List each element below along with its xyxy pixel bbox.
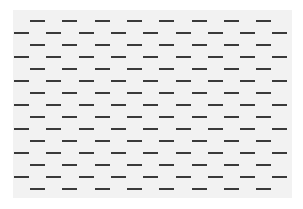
dash-mark xyxy=(224,20,239,22)
dash-mark xyxy=(95,20,110,22)
dash-mark xyxy=(143,176,158,178)
dash-mark xyxy=(79,56,94,58)
dash-mark xyxy=(30,140,45,142)
dash-mark xyxy=(95,44,110,46)
dash-mark xyxy=(127,188,142,190)
dash-mark xyxy=(256,92,271,94)
dash-mark xyxy=(143,104,158,106)
dash-mark xyxy=(143,80,158,82)
dash-mark xyxy=(159,140,174,142)
dash-mark xyxy=(272,152,287,154)
dash-mark xyxy=(143,32,158,34)
dash-mark xyxy=(79,80,94,82)
dash-mark xyxy=(46,56,61,58)
dash-mark xyxy=(224,140,239,142)
dash-mark xyxy=(46,80,61,82)
dash-mark xyxy=(62,44,77,46)
dash-mark xyxy=(176,128,191,130)
dash-mark xyxy=(79,152,94,154)
dash-mark xyxy=(159,68,174,70)
dash-mark xyxy=(240,104,255,106)
dash-mark xyxy=(111,152,126,154)
dash-mark xyxy=(127,140,142,142)
dash-mark xyxy=(14,56,29,58)
dash-mark xyxy=(79,104,94,106)
dash-mark xyxy=(240,80,255,82)
dash-mark xyxy=(208,128,223,130)
dash-mark xyxy=(224,116,239,118)
dash-mark xyxy=(256,140,271,142)
dash-mark xyxy=(176,104,191,106)
dash-mark xyxy=(46,152,61,154)
dash-mark xyxy=(62,68,77,70)
dash-mark xyxy=(30,188,45,190)
dash-mark xyxy=(192,140,207,142)
dash-mark xyxy=(192,20,207,22)
dash-mark xyxy=(224,188,239,190)
dash-mark xyxy=(30,116,45,118)
dash-mark xyxy=(14,104,29,106)
dash-mark xyxy=(192,164,207,166)
dash-mark xyxy=(30,68,45,70)
dash-mark xyxy=(95,92,110,94)
dash-mark xyxy=(208,32,223,34)
dash-mark xyxy=(256,20,271,22)
dash-mark xyxy=(46,176,61,178)
dash-mark xyxy=(143,56,158,58)
dash-mark xyxy=(256,188,271,190)
dash-mark xyxy=(256,44,271,46)
dash-mark xyxy=(176,32,191,34)
dash-mark xyxy=(159,116,174,118)
dash-mark xyxy=(192,68,207,70)
dash-mark xyxy=(30,44,45,46)
dash-mark xyxy=(272,128,287,130)
dash-mark xyxy=(240,32,255,34)
dash-mark xyxy=(159,164,174,166)
dash-mark xyxy=(224,44,239,46)
dash-mark xyxy=(14,152,29,154)
dash-mark xyxy=(256,164,271,166)
dash-mark xyxy=(127,92,142,94)
dash-mark xyxy=(208,152,223,154)
dash-mark xyxy=(95,116,110,118)
dash-mark xyxy=(240,56,255,58)
dash-mark xyxy=(62,164,77,166)
dash-mark xyxy=(272,104,287,106)
dash-mark xyxy=(46,32,61,34)
dash-mark xyxy=(272,80,287,82)
dash-mark xyxy=(208,80,223,82)
dash-mark xyxy=(240,128,255,130)
dash-mark xyxy=(14,32,29,34)
dash-mark xyxy=(272,176,287,178)
dash-mark xyxy=(127,164,142,166)
dash-mark xyxy=(159,92,174,94)
dash-mark xyxy=(95,164,110,166)
dash-mark xyxy=(127,20,142,22)
dash-mark xyxy=(111,104,126,106)
dash-mark xyxy=(79,128,94,130)
dash-mark xyxy=(46,128,61,130)
dash-mark xyxy=(30,20,45,22)
dash-mark xyxy=(143,128,158,130)
dash-mark xyxy=(176,56,191,58)
dash-mark xyxy=(192,116,207,118)
dash-mark xyxy=(240,176,255,178)
dash-mark xyxy=(192,92,207,94)
dash-mark xyxy=(30,164,45,166)
dash-mark xyxy=(14,176,29,178)
dash-mark xyxy=(159,44,174,46)
dash-mark xyxy=(79,32,94,34)
dash-mark xyxy=(272,32,287,34)
dash-mark xyxy=(192,188,207,190)
dash-mark xyxy=(224,92,239,94)
dash-mark xyxy=(62,140,77,142)
dash-mark xyxy=(111,32,126,34)
dash-mark xyxy=(192,44,207,46)
dash-mark xyxy=(256,116,271,118)
dash-mark xyxy=(111,80,126,82)
dash-mark xyxy=(62,92,77,94)
dash-mark xyxy=(127,68,142,70)
dash-mark xyxy=(176,176,191,178)
dash-mark xyxy=(46,104,61,106)
dash-mark xyxy=(159,188,174,190)
